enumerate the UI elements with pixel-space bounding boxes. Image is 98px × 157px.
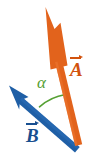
vector-a-label-text: A <box>70 60 83 79</box>
angle-arc-icon <box>40 95 66 107</box>
angle-alpha-label: α <box>37 74 46 91</box>
angle-arc-group <box>40 95 66 107</box>
vector-a-overarrow-icon <box>70 55 83 61</box>
vector-b-overarrow-icon <box>26 121 39 127</box>
vector-angle-figure: A B α <box>0 0 98 157</box>
vector-a-label: A <box>70 55 83 79</box>
vector-b-label: B <box>26 121 39 145</box>
vector-a-arrowhead-icon <box>46 7 68 70</box>
vector-b-label-text: B <box>26 126 39 145</box>
figure-canvas <box>0 0 98 157</box>
